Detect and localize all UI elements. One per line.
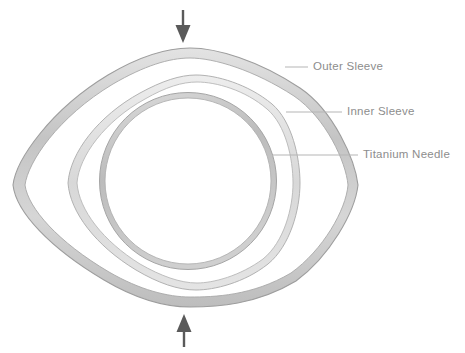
titanium-needle-inner-edge [105, 98, 271, 264]
top-arrow-icon [176, 10, 191, 43]
diagram-canvas [0, 0, 465, 353]
bottom-arrow-head [177, 314, 192, 332]
label-outer-sleeve: Outer Sleeve [313, 61, 383, 73]
label-inner-sleeve: Inner Sleeve [347, 106, 415, 118]
label-titanium-needle: Titanium Needle [363, 149, 450, 161]
titanium-needle-shape [100, 93, 277, 270]
top-arrow-head [176, 25, 191, 43]
needle-cross-section-diagram: Outer Sleeve Inner Sleeve Titanium Needl… [0, 0, 465, 353]
bottom-arrow-icon [177, 314, 192, 347]
